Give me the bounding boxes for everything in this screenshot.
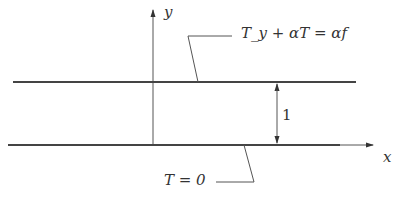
bottom-condition-leader — [216, 145, 254, 182]
y-axis-label: y — [164, 3, 172, 21]
diagram-canvas: y x T_y + αT = αf T = 0 1 — [0, 0, 395, 199]
top-condition-leader — [188, 36, 232, 82]
top-boundary-condition: T_y + αT = αf — [241, 24, 347, 42]
x-axis-label: x — [383, 148, 391, 166]
width-label: 1 — [282, 106, 292, 124]
bottom-boundary-condition: T = 0 — [164, 171, 206, 189]
